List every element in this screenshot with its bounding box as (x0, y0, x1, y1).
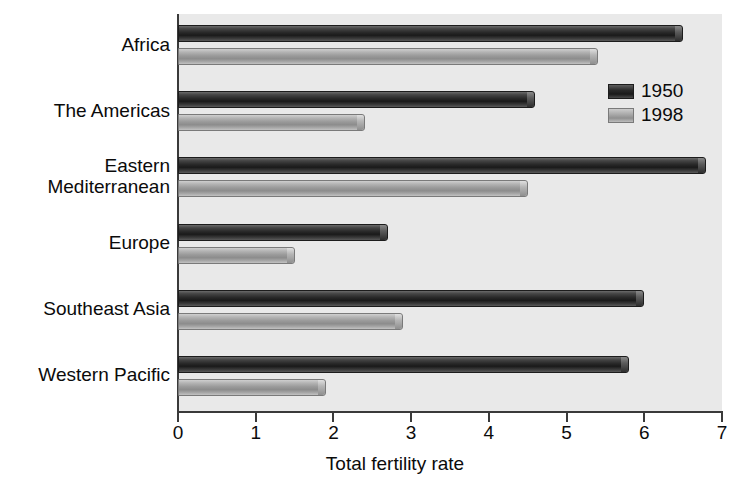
x-tick-1 (255, 413, 257, 422)
legend-item-1950[interactable]: 1950 (608, 79, 683, 103)
x-tick-2 (332, 413, 334, 422)
x-tick-5 (566, 413, 568, 422)
legend-swatch-1950 (608, 84, 634, 99)
category-label-western-pacific: Western Pacific (0, 364, 180, 385)
bar-1998-southeast-asia (178, 313, 403, 330)
plot-area (178, 14, 722, 412)
bar-1950-southeast-asia (178, 290, 644, 307)
x-tick-label-6: 6 (639, 422, 650, 444)
category-label-europe: Europe (0, 232, 180, 253)
bar-1998-western-pacific (178, 379, 326, 396)
bar-1998-eastern-mediterranean (178, 180, 528, 197)
bar-1950-africa (178, 25, 683, 42)
x-tick-0 (177, 413, 179, 422)
y-axis-line (177, 14, 179, 412)
x-tick-7 (721, 413, 723, 422)
x-tick-4 (488, 413, 490, 422)
category-label-africa: Africa (0, 34, 180, 55)
legend-item-1998[interactable]: 1998 (608, 103, 683, 127)
x-tick-label-4: 4 (484, 422, 495, 444)
legend-label-1950: 1950 (641, 80, 683, 102)
bar-1950-western-pacific (178, 356, 629, 373)
legend-swatch-1998 (608, 108, 634, 123)
bar-1998-the-americas (178, 114, 365, 131)
bar-1998-africa (178, 48, 598, 65)
x-tick-label-0: 0 (173, 422, 184, 444)
x-axis-title: Total fertility rate (0, 453, 750, 475)
legend-label-1998: 1998 (641, 104, 683, 126)
x-tick-6 (643, 413, 645, 422)
bar-1950-europe (178, 224, 388, 241)
x-tick-3 (410, 413, 412, 422)
x-tick-label-5: 5 (561, 422, 572, 444)
x-tick-label-7: 7 (717, 422, 728, 444)
x-axis-line (177, 411, 723, 413)
bar-1998-europe (178, 247, 295, 264)
x-tick-label-2: 2 (328, 422, 339, 444)
fertility-rate-bar-chart: 01234567 AfricaThe AmericasEasternMedite… (0, 0, 750, 498)
x-tick-label-1: 1 (250, 422, 261, 444)
category-label-southeast-asia: Southeast Asia (0, 298, 180, 319)
category-label-the-americas: The Americas (0, 100, 180, 121)
x-axis-title-text: Total fertility rate (326, 453, 464, 475)
bar-1950-the-americas (178, 91, 535, 108)
x-tick-label-3: 3 (406, 422, 417, 444)
bar-1950-eastern-mediterranean (178, 157, 706, 174)
category-label-eastern-mediterranean: EasternMediterranean (0, 155, 180, 197)
legend: 1950 1998 (608, 79, 683, 127)
